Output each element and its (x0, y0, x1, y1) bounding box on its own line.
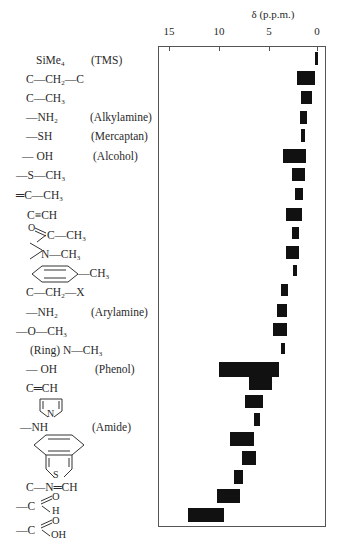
tick-label-5: 5 (259, 25, 279, 37)
note-amide: (Amide) (92, 420, 131, 434)
shift-range-bar (245, 395, 263, 408)
label-nh2-aryl: —NH2 (26, 305, 58, 323)
shift-range-bar (249, 376, 272, 390)
tick-label-10: 10 (209, 25, 229, 37)
benzene-ring-icon (30, 264, 80, 284)
shift-range-bar (230, 432, 254, 446)
shift-range-bar (301, 129, 305, 142)
note-phenol: (Phenol) (95, 362, 135, 376)
tick-mark-15 (169, 46, 170, 51)
label-nch3: N—CH3 (41, 247, 80, 265)
label-ch2x: C—CH2—X (26, 285, 84, 303)
tick-mark-0 (317, 46, 318, 51)
label-ch2: C—CH2—C (26, 72, 84, 90)
shift-range-bar (301, 91, 312, 104)
shift-range-bar (273, 323, 287, 336)
label-sch3: —S—CH3 (16, 168, 65, 186)
note-alkylamine: (Alkylamine) (90, 110, 152, 124)
label-pyrrole-n: N (47, 407, 54, 421)
shift-range-bar (219, 362, 279, 377)
label-arch3: —CH3 (78, 266, 109, 284)
label-acid: —C (16, 523, 35, 537)
shift-range-bar (286, 208, 302, 221)
shift-range-bar (300, 111, 307, 124)
shift-range-bar (217, 489, 240, 503)
note-tms: (TMS) (91, 53, 122, 67)
label-alkene: C═CH (26, 381, 58, 395)
shift-range-bar (281, 284, 288, 296)
shift-range-bar (292, 227, 299, 239)
label-sh: —SH (26, 129, 52, 143)
shift-range-bar (234, 470, 243, 484)
label-acetyl: C—CH3 (47, 228, 86, 246)
shift-range-bar (254, 413, 260, 426)
shift-range-bar (292, 168, 305, 181)
label-nh2-alkyl: —NH2 (26, 110, 58, 128)
shift-range-bar (188, 508, 224, 522)
note-arylamine: (Arylamine) (91, 305, 148, 319)
shift-range-bar (315, 52, 318, 65)
shift-range-bar (297, 71, 315, 85)
tick-mark-10 (219, 46, 220, 51)
label-aldehyde-o: O (52, 490, 60, 504)
shift-range-bar (286, 246, 299, 259)
label-ch3: C—CH3 (26, 91, 65, 109)
label-acid-o: O (52, 514, 60, 528)
label-och3: —O—CH3 (16, 324, 67, 342)
benzothiophene-icon (32, 433, 86, 483)
label-oh-alcohol: — OH (22, 149, 53, 163)
label-alkyne: C≡CH (27, 208, 57, 222)
label-acid-oh: OH (51, 528, 66, 542)
label-tms: SiMe4 (36, 53, 64, 71)
shift-range-bar (283, 149, 306, 163)
shift-range-bar (281, 343, 285, 354)
label-oh-phenol: — OH (26, 362, 57, 376)
note-mercaptan: (Mercaptan) (91, 129, 148, 143)
shift-range-bar (277, 304, 287, 317)
shift-range-bar (295, 188, 303, 200)
label-vinyl-ch3: ═C—CH3 (16, 188, 63, 206)
note-alcohol: (Alcohol) (93, 149, 138, 163)
tick-label-0: 0 (307, 25, 327, 37)
shift-range-bar (242, 451, 256, 465)
tick-mark-5 (269, 46, 270, 51)
shift-range-bar (293, 265, 297, 276)
tick-label-15: 15 (159, 25, 179, 37)
label-aldehyde: —C (16, 499, 35, 513)
label-amide: —NH (20, 420, 48, 434)
axis-title: δ (p.p.m.) (243, 8, 303, 20)
label-ring-nch3: (Ring) N—CH3 (30, 343, 102, 361)
